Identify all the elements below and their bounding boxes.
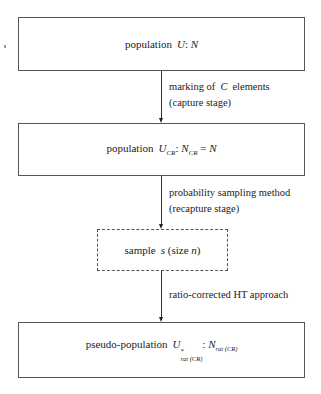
edge-2-label: probability sampling method (recapture s… xyxy=(169,185,290,217)
label-sep: : xyxy=(175,142,178,154)
label-prefix: sample xyxy=(125,244,156,256)
node-population: populationU: N xyxy=(18,17,305,71)
node-population-label: populationU: N xyxy=(125,38,198,50)
edge-3-label-line1: ratio-corrected HT approach xyxy=(169,287,288,303)
node-population-cr-label: populationUCR: NCR = N xyxy=(106,142,216,157)
label-sep: : xyxy=(185,38,188,50)
label-prefix: population xyxy=(106,142,153,154)
edge-1-pre: marking of xyxy=(169,81,215,92)
symbol-n: N xyxy=(208,338,215,350)
edge-3-label: ratio-corrected HT approach xyxy=(169,287,288,303)
symbol-c: C xyxy=(220,81,227,92)
edge-1-post: elements xyxy=(232,81,269,92)
edge-1-label-line2: (capture stage) xyxy=(169,95,270,111)
edge-2-label-line1: probability sampling method xyxy=(169,185,290,201)
label-sep: : xyxy=(202,338,205,350)
node-sample: samples (size n) xyxy=(97,229,228,271)
node-pseudo-population-label: pseudo-populationU*rat (CR): Nrat (CR) xyxy=(86,338,238,362)
superscript-star: * xyxy=(180,348,202,355)
subscript-rat-cr: rat (CR) xyxy=(180,355,202,362)
subscript-rat-cr: rat (CR) xyxy=(216,345,238,352)
symbol-n: N xyxy=(191,38,198,50)
symbol-u: U xyxy=(173,338,181,350)
edge-2-label-line2: (recapture stage) xyxy=(169,201,290,217)
symbol-n: N xyxy=(181,142,188,154)
edge-1-line xyxy=(161,71,162,118)
node-population-cr: populationUCR: NCR = N xyxy=(18,123,305,176)
edge-3-line xyxy=(161,271,162,317)
edge-1-label-line1: marking ofCelements xyxy=(169,79,270,95)
label-prefix: pseudo-population xyxy=(86,338,168,350)
size-prefix: (size xyxy=(168,244,189,256)
edge-1-label: marking ofCelements (capture stage) xyxy=(169,79,270,111)
label-prefix: population xyxy=(125,38,172,50)
u-scripts: *rat (CR) xyxy=(180,348,202,362)
edge-mark xyxy=(4,45,6,48)
equals-sign: = xyxy=(200,142,206,154)
node-pseudo-population: pseudo-populationU*rat (CR): Nrat (CR) xyxy=(18,322,305,378)
symbol-s: s xyxy=(161,244,165,256)
symbol-u: U xyxy=(177,38,185,50)
symbol-n: N xyxy=(209,142,216,154)
edge-2-line xyxy=(161,176,162,224)
subscript-cr: CR xyxy=(189,149,198,157)
node-sample-label: samples (size n) xyxy=(125,244,201,256)
paren-close: ) xyxy=(197,244,201,256)
